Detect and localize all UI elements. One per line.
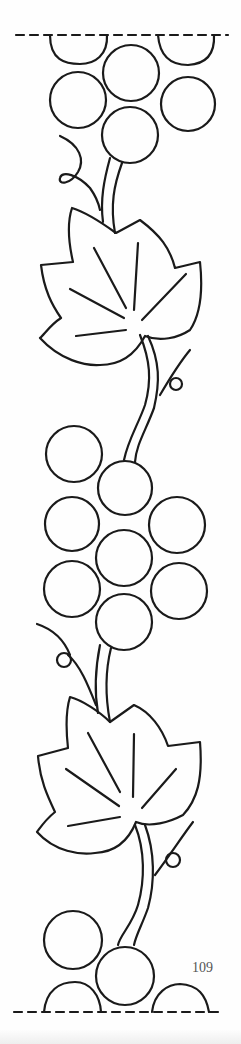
grape (102, 107, 158, 163)
page-number: 109 (192, 960, 213, 976)
grape (44, 911, 102, 969)
half-grape (152, 984, 209, 1012)
vine-stem (102, 158, 110, 222)
half-grape (50, 35, 107, 64)
tendril (37, 624, 70, 655)
grape (44, 561, 100, 617)
leaf-vein (76, 330, 126, 336)
grape (149, 497, 205, 553)
grape (50, 72, 106, 128)
leaf-vein (94, 248, 126, 308)
half-grape (44, 982, 101, 1012)
tendril-curl (166, 853, 180, 867)
tendril-curl (170, 378, 182, 390)
leaf-vein (88, 733, 120, 792)
vine-stem (124, 335, 149, 460)
leaf-vein (133, 734, 134, 797)
leaf-vein (142, 274, 186, 320)
vine-stem (113, 163, 122, 233)
grape (96, 947, 154, 1005)
grape (151, 563, 207, 619)
grape (98, 461, 152, 515)
grape-leaf (40, 208, 201, 365)
page-edge-shadow (0, 1030, 241, 1044)
half-grape (158, 35, 214, 65)
grape (96, 594, 152, 650)
leaf-vein (142, 769, 176, 808)
vine-stem (106, 648, 111, 722)
tendril (160, 350, 190, 395)
leaf-vein (70, 289, 124, 318)
vine-stem (134, 825, 153, 945)
leaf-vein (134, 243, 138, 310)
pattern-page: 109 (0, 0, 241, 1044)
grape (103, 45, 159, 101)
leaf-vein (68, 817, 120, 826)
grape (45, 497, 99, 551)
grape (161, 77, 215, 131)
vine-stem (96, 645, 100, 713)
grape (96, 530, 152, 586)
grape-vine-illustration (0, 0, 241, 1044)
grape (46, 426, 102, 482)
tendril (60, 136, 100, 210)
grape-leaf (37, 697, 201, 854)
